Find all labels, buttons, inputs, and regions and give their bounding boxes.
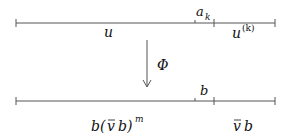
label-superscript-m: m bbox=[135, 114, 144, 124]
label-a: a bbox=[196, 4, 204, 19]
label-vbar-b: v b bbox=[233, 118, 253, 134]
label-b-close: b) bbox=[118, 118, 132, 134]
label-b-marker: b bbox=[200, 83, 208, 98]
map-arrow bbox=[143, 40, 151, 87]
label-b-vbar-b-m: b( v b) m bbox=[91, 114, 144, 134]
word-factorization-diagram: u a k u (k) Φ b( v b) m b v b bbox=[0, 0, 287, 138]
label-u-k-superscript: (k) bbox=[242, 23, 254, 33]
label-u: u bbox=[104, 24, 113, 40]
label-right-b: b bbox=[244, 118, 253, 134]
label-a-subscript-k: k bbox=[205, 12, 210, 22]
bottom-segment bbox=[16, 97, 275, 105]
label-u-k: u bbox=[232, 25, 241, 41]
label-phi: Φ bbox=[157, 57, 168, 73]
label-b-open: b( bbox=[91, 118, 106, 134]
